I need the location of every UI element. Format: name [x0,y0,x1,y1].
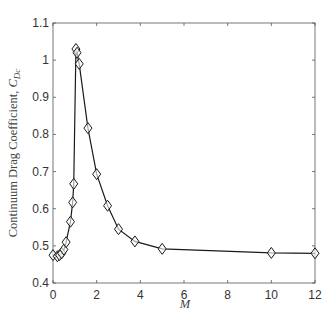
y-axis-label-subscript: Dc [12,69,22,81]
y-tick-label: 1.1 [32,16,49,30]
x-tick-label: 2 [93,288,100,302]
y-tick-label: 0.5 [32,239,49,253]
diamond-marker [84,123,92,134]
data-series [49,44,319,262]
diamond-marker [131,236,139,247]
x-tick-label: 4 [137,288,144,302]
x-axis-label: M [179,297,191,311]
y-tick-label: 0.7 [32,165,49,179]
chart: 0246810120.40.50.60.70.80.911.1 M Contin… [0,0,336,327]
diamond-marker [70,178,78,189]
x-tick-label: 0 [50,288,57,302]
y-axis-label-text: Continuum Drag Coefficient, [6,88,20,238]
diamond-marker [75,58,83,69]
y-axis-label: Continuum Drag Coefficient, CDc [6,69,22,238]
series-line [53,49,315,256]
diamond-marker [158,243,166,254]
y-tick-label: 0.9 [32,90,49,104]
diamond-marker [311,248,319,259]
diamond-marker [115,224,123,235]
diamond-marker [66,216,74,227]
x-tick-label: 12 [308,288,322,302]
diamond-marker [104,200,112,211]
x-tick-label: 8 [224,288,231,302]
diamond-marker [267,247,275,258]
y-tick-label: 0.8 [32,127,49,141]
y-tick-label: 0.6 [32,202,49,216]
y-tick-label: 1 [42,53,49,67]
x-tick-label: 10 [265,288,279,302]
diamond-marker [93,169,101,180]
y-tick-label: 0.4 [32,276,49,290]
diamond-marker [69,197,77,208]
